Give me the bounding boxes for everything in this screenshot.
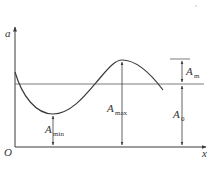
a-max-label: A max: [106, 102, 128, 117]
svg-text:A: A: [106, 102, 114, 114]
y-axis-label: a: [5, 27, 11, 39]
a-min-label: A min: [44, 123, 64, 138]
waveform-curve: [15, 60, 163, 114]
x-axis-label: x: [201, 147, 207, 159]
a-m-label: A m: [185, 65, 200, 80]
svg-text:0: 0: [181, 115, 185, 123]
origin-label: O: [4, 146, 12, 158]
amplitude-diagram: a O x A m A 0 A max A min: [0, 0, 212, 169]
speck-mark: [195, 5, 197, 7]
svg-text:max: max: [115, 109, 128, 117]
svg-text:m: m: [194, 72, 200, 80]
svg-text:A: A: [185, 65, 193, 77]
svg-text:A: A: [172, 108, 180, 120]
a-0-label: A 0: [172, 108, 185, 123]
svg-text:min: min: [53, 130, 64, 138]
svg-text:A: A: [44, 123, 52, 135]
